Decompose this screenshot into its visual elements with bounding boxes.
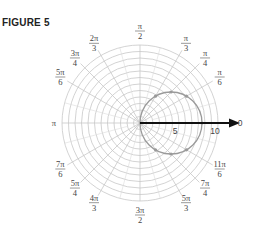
svg-text:π: π [184,33,189,43]
tick-label-10: 10 [210,126,220,136]
svg-text:2π: 2π [90,33,99,43]
svg-text:2: 2 [138,31,142,41]
angle-label: 0 [238,118,243,128]
svg-text:4: 4 [73,188,78,198]
svg-text:7π: 7π [201,178,210,188]
angle-label: π [52,118,57,128]
angle-label: 5π6 [55,67,65,87]
svg-text:4: 4 [73,58,78,68]
svg-text:7π: 7π [56,159,65,169]
svg-text:π: π [203,48,208,58]
angle-label: 7π4 [200,178,210,198]
svg-text:π: π [52,118,57,128]
grid-spoke-minor [153,126,216,143]
svg-text:6: 6 [218,169,222,179]
svg-text:3: 3 [92,203,96,213]
polar-plot: 510 π2π3π4π62π33π45π6π7π65π44π33π25π37π4… [0,0,254,238]
angle-label: π4 [200,48,210,68]
svg-text:4π: 4π [90,193,99,203]
svg-text:5π: 5π [182,193,191,203]
angle-label: π2 [135,21,145,41]
grid-spoke-minor [143,136,160,199]
svg-text:3π: 3π [136,205,145,215]
svg-text:5π: 5π [71,178,80,188]
svg-text:3: 3 [92,43,96,53]
angle-label: 7π6 [55,159,65,179]
angle-label: 3π4 [70,48,80,68]
curve-point [154,148,157,151]
grid-spoke-minor [120,48,137,111]
svg-text:3π: 3π [71,48,80,58]
svg-text:π: π [218,67,223,77]
curve-point [169,152,172,155]
grid-spoke-minor [65,126,128,143]
svg-text:π: π [138,21,143,31]
angle-label: 11π6 [213,159,226,179]
curve-point [185,148,188,151]
grid-spoke-minor [153,103,216,120]
tick-label-5: 5 [173,126,178,136]
angle-label: 3π2 [135,205,145,225]
svg-text:0: 0 [238,118,243,128]
angle-label: 5π4 [70,178,80,198]
curve-point [154,95,157,98]
svg-text:4: 4 [203,188,208,198]
angle-label: 5π3 [181,193,191,213]
svg-text:6: 6 [58,169,62,179]
angle-label: π6 [215,67,225,87]
svg-text:5π: 5π [56,67,65,77]
grid-spoke-minor [120,136,137,199]
curve-point [185,95,188,98]
svg-text:6: 6 [58,77,62,87]
curve-point [169,90,172,93]
svg-text:4: 4 [203,58,208,68]
svg-text:6: 6 [218,77,222,87]
grid-spoke-minor [65,103,128,120]
svg-text:2: 2 [138,215,142,225]
angle-label: 2π3 [89,33,99,53]
angle-label: 4π3 [89,193,99,213]
angle-label: π3 [181,33,191,53]
svg-text:11π: 11π [213,159,226,169]
grid-spoke-minor [143,48,160,111]
svg-text:3: 3 [184,43,188,53]
svg-text:3: 3 [184,203,188,213]
